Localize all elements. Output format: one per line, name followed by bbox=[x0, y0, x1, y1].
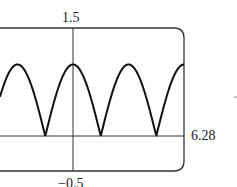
abs-cos-curve bbox=[0, 65, 184, 136]
plot-area bbox=[0, 0, 237, 187]
x-max-label: 6.28 bbox=[191, 129, 216, 143]
y-max-label: 1.5 bbox=[62, 11, 80, 25]
y-min-label: −0.5 bbox=[58, 177, 83, 187]
